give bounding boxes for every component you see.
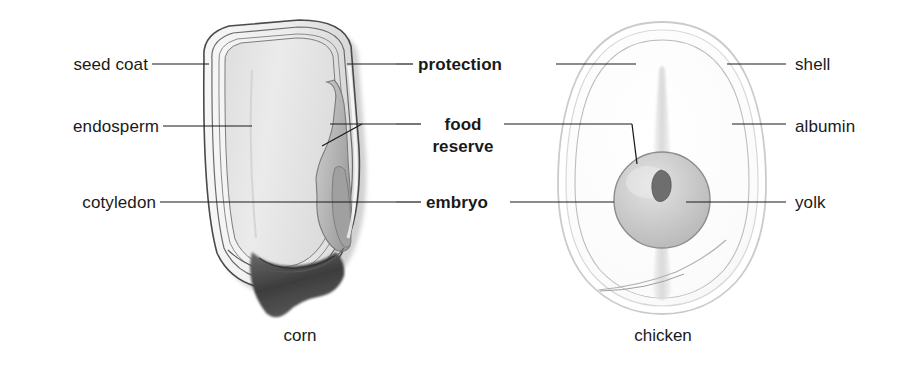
label-reserve: reserve xyxy=(420,136,506,157)
label-cotyledon: cotyledon xyxy=(0,192,156,213)
chicken-egg-illustration xyxy=(558,22,766,314)
label-protection: protection xyxy=(418,54,502,75)
caption-chicken: chicken xyxy=(620,326,706,346)
blastodisc-embryo xyxy=(652,170,671,202)
label-embryo: embryo xyxy=(426,192,488,213)
label-albumin: albumin xyxy=(795,116,855,137)
label-seed-coat: seed coat xyxy=(0,54,148,75)
label-yolk: yolk xyxy=(795,192,826,213)
label-food: food xyxy=(420,114,506,135)
caption-corn: corn xyxy=(260,326,340,346)
corn-kernel-illustration xyxy=(204,20,367,317)
label-endosperm: endosperm xyxy=(0,116,159,137)
label-shell: shell xyxy=(795,54,830,75)
